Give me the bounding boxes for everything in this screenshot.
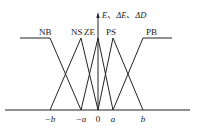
set-ns-curve <box>50 38 98 110</box>
label-ns: NS <box>71 27 83 37</box>
set-ze-curve <box>81 38 113 110</box>
label-pb: PB <box>146 27 157 37</box>
membership-diagram: NB NS ZE PS PB E、ΔE、ΔD −b −a 0 a b <box>0 0 199 130</box>
tick-neg-b: −b <box>45 114 56 124</box>
tick-a: a <box>111 114 116 124</box>
label-ps: PS <box>106 27 116 37</box>
tick-neg-a: −a <box>76 114 87 124</box>
set-ps-curve <box>98 38 143 110</box>
label-nb: NB <box>39 27 52 37</box>
tick-b: b <box>141 114 146 124</box>
set-nb-curve <box>20 38 81 110</box>
axis-arrow-icon <box>96 12 99 18</box>
axis-label: E、ΔE、ΔD <box>101 10 147 20</box>
label-ze: ZE <box>84 27 95 37</box>
set-pb-curve <box>113 38 172 110</box>
tick-zero: 0 <box>96 114 101 124</box>
